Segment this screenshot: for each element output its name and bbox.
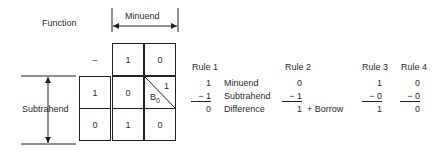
rule-1-difference: 0 [191, 104, 211, 114]
cell-0-1: 1 [112, 108, 144, 141]
rule-3-title: Rule 3 [362, 62, 388, 72]
col-header-1: 1 [112, 43, 144, 76]
row-header-0: 0 [79, 108, 111, 141]
subtrahend-arrow-icon [18, 74, 78, 146]
rule-3-subtrahend: − 0 [362, 91, 382, 102]
rule-2-title: Rule 2 [285, 62, 311, 72]
rule-2-subtrahend: − 1 [282, 91, 302, 102]
corner-cell: – [79, 43, 111, 76]
rule-1-minuend: 1 [191, 78, 211, 88]
rule-4-title: Rule 4 [401, 62, 427, 72]
rule-4-minuend: 0 [400, 78, 420, 88]
rule-3-minuend: 1 [362, 78, 382, 88]
rule-3-difference: 1 [362, 104, 382, 114]
function-label: Function [42, 18, 77, 28]
borrow-label: B0 [150, 92, 160, 104]
rule-2-difference: 1 [282, 104, 302, 114]
borrow-subscript: 0 [156, 97, 160, 104]
rule-1-subtrahend: − 1 [191, 91, 211, 102]
col-header-0: 0 [144, 43, 176, 76]
rule-2-borrow-note: + Borrow [307, 104, 343, 114]
cell-borrow: 1 B0 [144, 76, 176, 109]
rule-4-subtrahend: − 0 [400, 91, 420, 102]
subtrahend-row-label: Subtrahend [224, 91, 271, 101]
rule-2-minuend: 0 [282, 78, 302, 88]
difference-row-label: Difference [224, 104, 265, 114]
rule-4-difference: 0 [400, 104, 420, 114]
minuend-row-label: Minuend [224, 78, 259, 88]
row-header-1: 1 [79, 76, 111, 109]
difference-value: 1 [164, 81, 169, 91]
cell-1-1: 0 [112, 76, 144, 109]
cell-0-0: 0 [144, 108, 176, 141]
minuend-arrow-icon [110, 5, 180, 35]
rule-1-title: Rule 1 [192, 62, 218, 72]
